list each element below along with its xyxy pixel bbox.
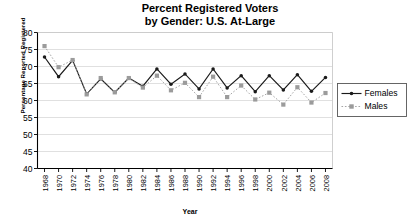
y-tick-label: 70 [23, 62, 33, 72]
x-tick-label: 2002 [280, 175, 289, 191]
data-point [267, 91, 271, 95]
y-tick-label: 45 [23, 147, 33, 157]
chart-plot: 404550556065707580 196819701972197419761… [0, 0, 411, 221]
data-point [42, 44, 46, 48]
x-tick-label: 1982 [139, 175, 148, 191]
legend-label-males: Males [365, 101, 388, 111]
data-point [183, 72, 187, 76]
x-tick-label: 1992 [209, 175, 218, 191]
y-tick-label: 50 [23, 130, 33, 140]
data-point [253, 90, 257, 94]
x-tick-label: 2008 [322, 175, 331, 191]
data-point [169, 88, 173, 92]
y-tick-label: 60 [23, 96, 33, 106]
grid-lines [38, 33, 333, 152]
data-point [56, 65, 60, 69]
y-tick-label: 75 [23, 45, 33, 55]
y-axis-ticks: 404550556065707580 [23, 28, 37, 174]
data-point [310, 90, 314, 94]
x-tick-label: 1968 [41, 175, 50, 191]
x-tick-label: 1970 [55, 175, 64, 191]
data-point [268, 74, 272, 78]
x-tick-label: 1984 [153, 175, 162, 191]
data-point [239, 83, 243, 87]
x-tick-label: 1996 [237, 175, 246, 191]
x-tick-label: 1998 [251, 175, 260, 191]
data-point [323, 91, 327, 95]
legend-marker-females [350, 92, 354, 96]
data-point [85, 92, 89, 96]
data-point [296, 73, 300, 77]
data-point [211, 67, 215, 71]
data-point [295, 85, 299, 89]
x-tick-label: 2004 [294, 175, 303, 191]
data-point [113, 90, 117, 94]
chart-container: Percent Registered Voters by Gender: U.S… [0, 0, 411, 221]
data-point [57, 75, 61, 79]
data-point [239, 74, 243, 78]
y-tick-label: 55 [23, 113, 33, 123]
x-tick-label: 1972 [69, 175, 78, 191]
data-point [282, 88, 286, 92]
data-point [71, 58, 75, 62]
data-point [155, 74, 159, 78]
data-point [43, 55, 47, 59]
data-point [253, 97, 257, 101]
data-point [127, 76, 131, 80]
legend-label-females: Females [365, 88, 398, 98]
y-tick-label: 40 [23, 164, 33, 174]
x-tick-label: 2000 [265, 175, 274, 191]
data-point [197, 87, 201, 91]
x-tick-label: 1974 [83, 175, 92, 191]
data-point [183, 81, 187, 85]
data-point [281, 102, 285, 106]
data-point [99, 76, 103, 80]
x-tick-label: 1976 [97, 175, 106, 191]
x-tick-label: 1986 [167, 175, 176, 191]
data-point [225, 95, 229, 99]
data-point [169, 82, 173, 86]
x-tick-label: 1978 [111, 175, 120, 191]
data-series-layer [42, 44, 327, 107]
data-point [155, 67, 159, 71]
x-tick-label: 1980 [125, 175, 134, 191]
data-point [197, 95, 201, 99]
data-point [141, 85, 145, 89]
x-tick-label: 1990 [195, 175, 204, 191]
data-point [211, 75, 215, 79]
chart-legend: FemalesMales [338, 84, 407, 117]
x-axis-ticks: 1968197019721974197619781980198219841986… [41, 169, 331, 192]
data-point [324, 76, 328, 80]
data-point [225, 86, 229, 90]
x-tick-label: 1988 [181, 175, 190, 191]
data-point [309, 100, 313, 104]
x-tick-label: 2006 [308, 175, 317, 191]
y-tick-label: 80 [23, 28, 33, 38]
y-tick-label: 65 [23, 79, 33, 89]
x-tick-label: 1994 [223, 175, 232, 191]
legend-marker-males [349, 104, 353, 108]
